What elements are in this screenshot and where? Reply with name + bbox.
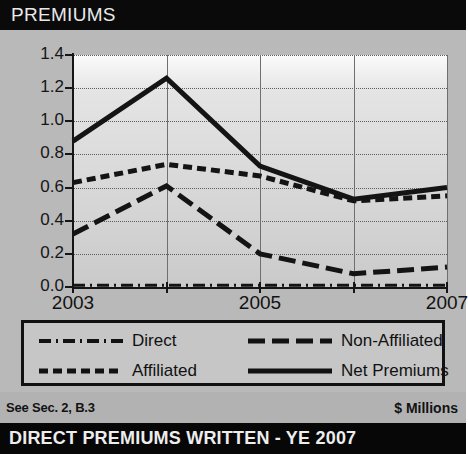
x-axis-tick	[259, 282, 261, 293]
y-axis-tick	[65, 187, 73, 189]
series-line-net-premiums	[73, 78, 447, 199]
units-label: $ Millions	[394, 400, 466, 416]
y-axis-tick	[65, 87, 73, 89]
bottom-banner-title: DIRECT PREMIUMS WRITTEN - YE 2007	[0, 428, 356, 449]
legend-item-affiliated: Affiliated	[24, 354, 233, 387]
footer-note-strip: See Sec. 2, B.3 $ Millions	[0, 392, 466, 423]
y-axis-tick	[65, 54, 73, 56]
x-axis-tick	[72, 282, 74, 293]
y-axis-tick	[65, 120, 73, 122]
x-axis-tick	[446, 282, 448, 293]
legend-label-non-affiliated: Non-Affiliated	[341, 331, 443, 351]
legend-swatch-net-premiums	[247, 364, 333, 378]
series-lines	[0, 30, 466, 315]
legend-item-non-affiliated: Non-Affiliated	[233, 324, 442, 357]
chart-legend: Direct Non-Affiliated Affiliated Net Pre…	[21, 320, 445, 386]
source-reference: See Sec. 2, B.3	[0, 400, 95, 415]
legend-item-direct: Direct	[24, 324, 233, 357]
bottom-banner: DIRECT PREMIUMS WRITTEN - YE 2007	[0, 423, 466, 454]
x-axis-tick	[166, 282, 168, 293]
header-bar: PREMIUMS	[0, 0, 466, 30]
legend-row-2: Affiliated Net Premiums	[24, 354, 442, 387]
legend-swatch-direct	[38, 334, 124, 348]
y-axis-tick	[65, 153, 73, 155]
legend-item-net-premiums: Net Premiums	[233, 354, 442, 387]
page-title: PREMIUMS	[0, 4, 116, 26]
legend-swatch-non-affiliated	[247, 334, 333, 348]
legend-swatch-affiliated	[38, 364, 124, 378]
legend-label-net-premiums: Net Premiums	[341, 361, 449, 381]
line-chart: 0.00.20.40.60.81.01.21.4 200320052007	[0, 30, 466, 315]
legend-label-direct: Direct	[132, 331, 176, 351]
legend-row-1: Direct Non-Affiliated	[24, 324, 442, 357]
legend-label-affiliated: Affiliated	[132, 361, 197, 381]
x-axis-tick	[353, 282, 355, 293]
y-axis-tick	[65, 253, 73, 255]
y-axis-tick	[65, 220, 73, 222]
